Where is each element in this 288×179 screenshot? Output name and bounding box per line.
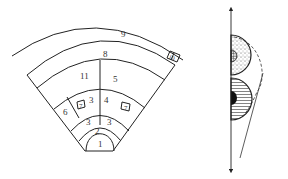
arc-zone-8-inner bbox=[37, 59, 165, 88]
diagram-canvas: 1 2 3 3 3 4 5 6 7 7 8 9 10 11 bbox=[0, 0, 288, 179]
label-zone-11: 11 bbox=[80, 71, 89, 81]
label-zone-6: 6 bbox=[63, 107, 68, 117]
label-zone-4: 4 bbox=[104, 95, 109, 105]
arc-zone-8-outer bbox=[27, 41, 175, 75]
zone-6-divider bbox=[67, 97, 79, 118]
label-zone-2: 2 bbox=[95, 126, 100, 136]
arc-zone-9 bbox=[12, 28, 183, 60]
label-zone-5: 5 bbox=[113, 74, 118, 84]
label-zone-8: 8 bbox=[103, 49, 108, 59]
fan-diagram: 1 2 3 3 3 4 5 6 7 7 8 9 10 11 bbox=[12, 28, 183, 151]
label-zone-7-right: 7 bbox=[124, 104, 128, 112]
label-zone-7-left: 7 bbox=[79, 102, 83, 110]
label-zone-3-right: 3 bbox=[107, 117, 112, 127]
fan-right-edge bbox=[113, 65, 175, 151]
label-zone-3-left: 3 bbox=[86, 117, 91, 127]
profile-diagram bbox=[231, 9, 263, 171]
label-zone-3-upper: 3 bbox=[89, 95, 94, 105]
label-zone-9: 9 bbox=[121, 29, 126, 39]
label-zone-1: 1 bbox=[98, 139, 103, 149]
label-zone-10: 10 bbox=[168, 54, 176, 62]
